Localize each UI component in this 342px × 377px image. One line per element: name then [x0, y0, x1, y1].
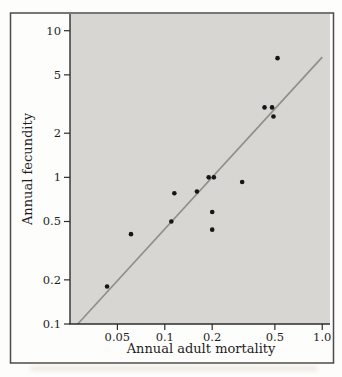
scatter-plot: 0.050.10.20.51.0105210.50.20.1 Annual ad… — [0, 0, 342, 377]
data-point — [270, 105, 275, 110]
data-point — [275, 56, 280, 61]
x-axis-title: Annual adult mortality — [126, 341, 276, 356]
y-tick-label: 1 — [54, 170, 61, 184]
y-tick-label: 10 — [46, 24, 61, 38]
y-axis-title: Annual fecundity — [20, 112, 35, 226]
x-tick-label: 1.0 — [313, 330, 331, 344]
data-point — [169, 219, 174, 224]
y-tick-label: 2 — [54, 126, 61, 140]
data-point — [271, 114, 276, 119]
y-tick-label: 0.2 — [43, 273, 61, 287]
data-point — [262, 105, 267, 110]
data-point — [210, 227, 215, 232]
y-tick-label: 5 — [54, 68, 61, 82]
data-point — [105, 284, 110, 289]
data-point — [172, 191, 177, 196]
data-point — [212, 175, 217, 180]
data-point — [129, 232, 134, 237]
book-figure-page: 0.050.10.20.51.0105210.50.20.1 Annual ad… — [0, 0, 342, 377]
plot-area — [70, 14, 330, 324]
data-point — [240, 180, 245, 185]
y-tick-label: 0.5 — [43, 214, 61, 228]
scan-artifact — [30, 366, 318, 371]
data-point — [206, 175, 211, 180]
y-tick-label: 0.1 — [43, 317, 61, 331]
data-point — [195, 189, 200, 194]
data-point — [210, 210, 215, 215]
